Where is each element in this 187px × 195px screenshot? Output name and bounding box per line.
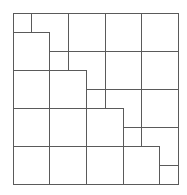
horizontal-lines	[13, 14, 178, 185]
vertical-lines	[14, 13, 179, 185]
square-tiling-diagram	[0, 0, 187, 195]
